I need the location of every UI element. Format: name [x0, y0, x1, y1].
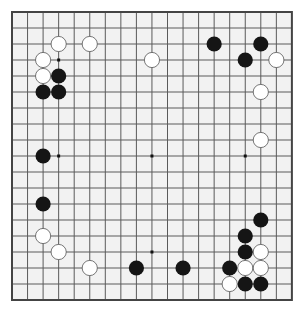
black-stone	[175, 260, 190, 275]
black-stone	[253, 212, 268, 227]
black-stone	[238, 244, 253, 259]
star-point	[57, 59, 60, 62]
black-stone	[51, 84, 66, 99]
go-board[interactable]	[0, 0, 301, 309]
black-stone	[51, 68, 66, 83]
star-point	[244, 155, 247, 158]
white-stone	[36, 52, 51, 67]
white-stone	[253, 244, 268, 259]
black-stone	[207, 36, 222, 51]
black-stone	[222, 260, 237, 275]
white-stone	[36, 228, 51, 243]
white-stone	[51, 36, 66, 51]
black-stone	[238, 276, 253, 291]
black-stone	[238, 228, 253, 243]
white-stone	[253, 260, 268, 275]
black-stone	[36, 148, 51, 163]
white-stone	[51, 244, 66, 259]
white-stone	[82, 36, 97, 51]
white-stone	[253, 132, 268, 147]
white-stone	[36, 68, 51, 83]
star-point	[150, 155, 153, 158]
black-stone	[36, 196, 51, 211]
white-stone	[253, 84, 268, 99]
black-stone	[253, 276, 268, 291]
star-point	[150, 251, 153, 254]
black-stone	[129, 260, 144, 275]
white-stone	[238, 260, 253, 275]
white-stone	[82, 260, 97, 275]
black-stone	[36, 84, 51, 99]
white-stone	[269, 52, 284, 67]
white-stone	[222, 276, 237, 291]
white-stone	[144, 52, 159, 67]
star-point	[57, 155, 60, 158]
black-stone	[238, 52, 253, 67]
black-stone	[253, 36, 268, 51]
